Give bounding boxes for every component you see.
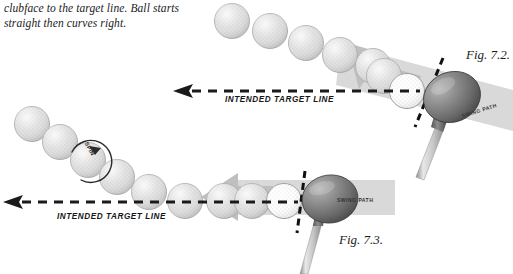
figure-label-7-2: Fig. 7.2.: [466, 47, 510, 63]
ball: [323, 38, 358, 73]
body-caption-text: clubface to the target line. Ball starts…: [4, 1, 184, 31]
ball-flight-1: [215, 4, 425, 109]
figure-7-3-artwork: [3, 107, 395, 274]
ball: [289, 26, 324, 61]
ball: [253, 14, 288, 49]
intended-target-line-label-2: INTENDED TARGET LINE: [57, 212, 166, 221]
figure-label-7-3: Fig. 7.3.: [339, 232, 383, 248]
intended-target-line-label-1: INTENDED TARGET LINE: [225, 95, 334, 104]
ball: [132, 175, 167, 210]
club-shaft-2: [300, 214, 325, 274]
illustration-canvas: [0, 0, 513, 274]
ball: [215, 4, 250, 39]
figure-page: clubface to the target line. Ball starts…: [0, 0, 513, 274]
swing-path-label-2: SWING PATH: [337, 197, 373, 203]
figure-7-2-artwork: [173, 4, 513, 181]
club-shaft-1: [416, 116, 447, 180]
